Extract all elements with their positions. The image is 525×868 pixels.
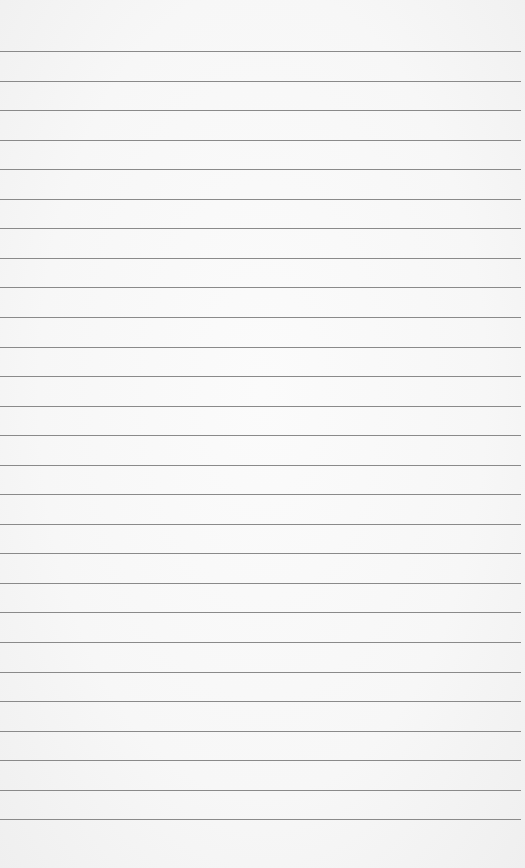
ruled-line <box>0 51 521 52</box>
ruled-line <box>0 110 521 111</box>
lined-paper <box>0 0 525 868</box>
ruled-line <box>0 583 521 584</box>
ruled-line <box>0 347 521 348</box>
ruled-line <box>0 317 521 318</box>
ruled-line <box>0 287 521 288</box>
ruled-line <box>0 553 521 554</box>
ruled-line <box>0 465 521 466</box>
ruled-line <box>0 169 521 170</box>
ruled-line <box>0 140 521 141</box>
ruled-line <box>0 701 521 702</box>
ruled-line <box>0 494 521 495</box>
ruled-line <box>0 672 521 673</box>
ruled-line <box>0 612 521 613</box>
ruled-line <box>0 760 521 761</box>
ruled-line <box>0 524 521 525</box>
ruled-line <box>0 790 521 791</box>
ruled-line <box>0 406 521 407</box>
ruled-line <box>0 731 521 732</box>
ruled-line <box>0 376 521 377</box>
ruled-line <box>0 81 521 82</box>
ruled-line <box>0 642 521 643</box>
ruled-line <box>0 199 521 200</box>
ruled-line <box>0 435 521 436</box>
ruled-line <box>0 258 521 259</box>
ruled-line <box>0 228 521 229</box>
ruled-line <box>0 819 521 820</box>
